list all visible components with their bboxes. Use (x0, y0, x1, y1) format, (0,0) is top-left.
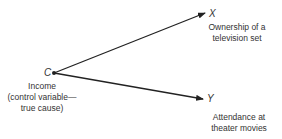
node-y-label-line-2: theater movies (198, 123, 280, 134)
node-c-label-line-3: true cause) (0, 103, 84, 114)
node-y-symbol: Y (207, 93, 214, 104)
node-c-symbol: C (44, 67, 51, 78)
edge-c-to-x-arrow (54, 13, 205, 73)
node-y-label-line-1: Attendance at (198, 112, 280, 123)
node-c-label: Income (control variable— true cause) (0, 81, 84, 114)
node-y-label: Attendance at theater movies (198, 112, 280, 134)
node-x-label-line-1: Ownership of a (196, 22, 278, 33)
node-c-label-line-1: Income (0, 81, 84, 92)
node-c-label-line-2: (control variable— (0, 92, 84, 103)
node-x-symbol: X (209, 8, 216, 19)
node-x-label: Ownership of a television set (196, 22, 278, 44)
node-x-label-line-2: television set (196, 33, 278, 44)
